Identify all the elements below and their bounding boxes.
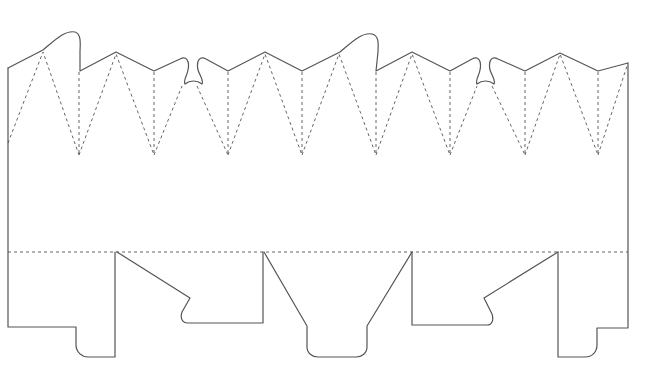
dieline-diagram <box>0 0 664 384</box>
background <box>0 0 664 384</box>
